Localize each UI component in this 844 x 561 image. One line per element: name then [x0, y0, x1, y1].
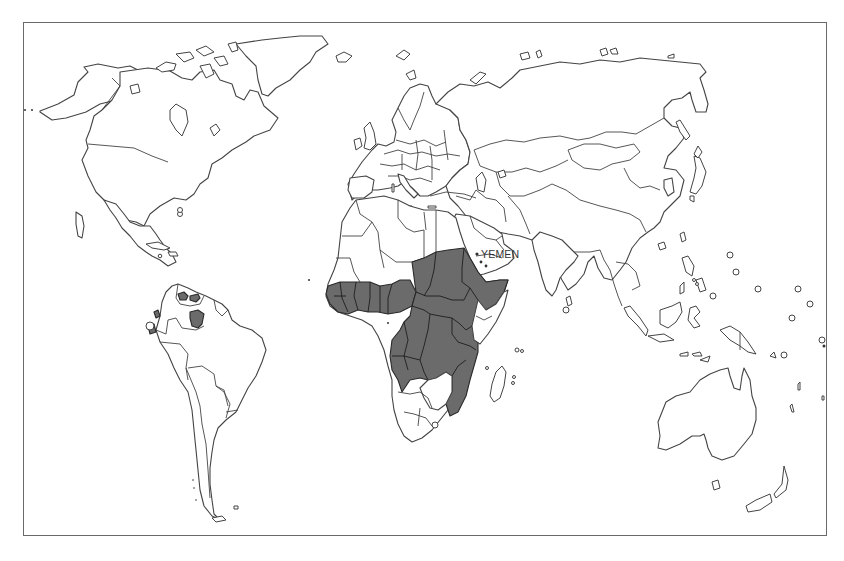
- south-america-mainland: [156, 284, 266, 520]
- new-zealand-north: [774, 466, 788, 498]
- sumatra: [624, 306, 648, 336]
- java: [648, 334, 674, 342]
- yemen-label: YEMEN: [481, 248, 519, 260]
- south-america: [146, 284, 266, 522]
- oceania: [658, 368, 788, 512]
- yemen-focus-dot: [485, 265, 488, 268]
- new-zealand-south: [746, 494, 772, 512]
- iceland: [336, 52, 352, 62]
- iberia: [348, 176, 374, 198]
- great-britain: [364, 122, 376, 150]
- philippines: [682, 256, 694, 276]
- japan: [690, 156, 706, 194]
- madagascar: [490, 366, 506, 402]
- north-america: [40, 36, 328, 266]
- endemic-west-africa: [326, 280, 416, 314]
- ireland: [354, 138, 362, 150]
- yemen-focus-dot: [475, 252, 478, 255]
- sulawesi: [688, 306, 700, 328]
- focus-colombia: [154, 310, 160, 318]
- greenland: [236, 36, 328, 96]
- world-map: YEMEN: [0, 0, 844, 561]
- australia: [658, 368, 756, 460]
- borneo: [660, 302, 682, 328]
- yemen-focus-dot: [480, 261, 483, 264]
- new-guinea: [720, 326, 756, 354]
- tasmania: [712, 480, 720, 490]
